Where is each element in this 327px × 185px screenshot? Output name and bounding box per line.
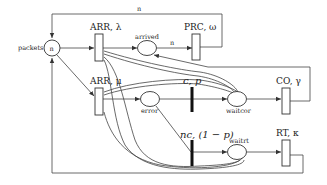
place-error	[141, 92, 160, 107]
label-rt-kappa: RT, κ	[276, 128, 299, 138]
label-prc-omega: PRC, ω	[184, 22, 216, 32]
transition-co-gamma	[282, 88, 290, 114]
label-arr-mu: ARR, μ	[89, 76, 122, 86]
arc-arr-mu-waitcor-2	[104, 83, 235, 95]
transition-nc-1mp	[191, 140, 194, 166]
place-waitcor	[228, 92, 247, 107]
petri-net-diagram: packets n arrived error waitcor waitrt A…	[0, 0, 327, 185]
label-waitcor: waitcor	[226, 107, 252, 115]
transition-rt-kappa	[282, 140, 290, 166]
transition-c-p	[191, 87, 194, 112]
label-arr-lambda: ARR, λ	[89, 22, 122, 32]
token-packets: n	[50, 45, 54, 53]
arc-label-top-loop: n	[137, 5, 141, 13]
label-nc-1mp: nc, (1 − p)	[180, 129, 234, 140]
label-arrived: arrived	[135, 33, 159, 41]
place-arrived	[138, 41, 157, 56]
transition-prc-omega	[192, 34, 200, 60]
transition-arr-mu	[95, 88, 103, 115]
arc-label-arrived-prc: n	[170, 39, 174, 47]
place-waitrt	[228, 145, 247, 160]
label-c-p: c, p	[183, 75, 202, 86]
label-packets: packets	[18, 44, 43, 52]
label-co-gamma: CO, γ	[276, 76, 301, 86]
label-error: error	[141, 107, 159, 115]
arc-arr-lambda-curve-a	[104, 57, 242, 167]
transition-arr-lambda	[95, 34, 103, 61]
arc-arr-lambda-curve-b	[104, 60, 244, 169]
arc-packets-to-arr-mu	[57, 55, 94, 96]
